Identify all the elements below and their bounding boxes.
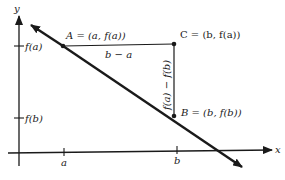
- point-b-label: B = (b, f(b)): [180, 107, 242, 118]
- vertical-distance-label: f(a) − f(b): [161, 60, 172, 111]
- point-c-label: C = (b, f(a)): [180, 29, 241, 40]
- secant-diagram: y x f(a) f(b) a b A = (a, f(a)) C = (b, …: [0, 0, 285, 180]
- point-a: [61, 44, 66, 49]
- x-axis: [8, 150, 272, 153]
- y-tick-label-fa: f(a): [24, 41, 43, 52]
- x-tick-label-a: a: [61, 157, 67, 168]
- point-a-label: A = (a, f(a)): [65, 30, 126, 41]
- y-tick-label-fb: f(b): [24, 113, 43, 124]
- x-axis-label: x: [275, 144, 281, 155]
- segment-ac: [63, 44, 174, 46]
- point-b: [172, 114, 177, 119]
- horizontal-distance-label: b − a: [105, 49, 132, 60]
- x-tick-label-b: b: [174, 155, 180, 166]
- y-axis-label: y: [13, 3, 20, 14]
- point-c: [172, 42, 177, 47]
